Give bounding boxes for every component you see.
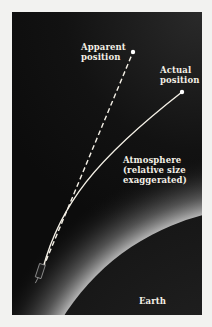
actual-position-label: Actual position (160, 65, 199, 85)
label-line: Actual (160, 65, 199, 75)
label-line: (relative size (123, 165, 187, 175)
label-line: position (81, 52, 126, 62)
apparent-star-icon (131, 50, 135, 54)
apparent-position-label: Apparent position (81, 42, 126, 62)
label-line: position (160, 75, 199, 85)
label-line: exaggerated) (123, 175, 187, 185)
diagram-panel: Apparent position Actual position Atmosp… (12, 12, 202, 315)
label-line: Apparent (81, 42, 126, 52)
label-line: Atmosphere (123, 155, 187, 165)
actual-star-icon (180, 90, 184, 94)
atmosphere-label: Atmosphere (relative size exaggerated) (123, 155, 187, 185)
earth-label: Earth (139, 296, 166, 306)
